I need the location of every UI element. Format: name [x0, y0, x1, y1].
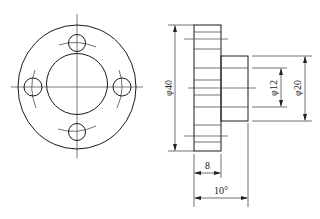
bolt-circle-arc-right	[117, 70, 122, 108]
bolt-circle-arc-left	[32, 70, 36, 108]
dim-8-label: 8	[205, 160, 210, 171]
dim-phi40-label: φ40	[163, 80, 174, 96]
arrow-icon	[303, 56, 307, 63]
arrow-icon	[303, 114, 307, 121]
arrow-icon	[214, 171, 221, 175]
side-view: φ40 φ12 φ20 8 10°	[163, 25, 312, 207]
arrow-icon	[173, 144, 177, 151]
arrow-icon	[279, 100, 283, 107]
arrow-icon	[173, 25, 177, 32]
arrow-icon	[241, 196, 248, 200]
dim-phi20-label: φ20	[292, 80, 303, 96]
hub-section	[221, 56, 248, 121]
arrow-icon	[279, 68, 283, 75]
dim-10-label: 10°	[214, 185, 228, 196]
arrow-icon	[194, 171, 201, 175]
front-view	[11, 14, 143, 158]
dim-phi12-label: φ12	[268, 80, 279, 96]
technical-drawing: φ40 φ12 φ20 8 10°	[0, 0, 320, 219]
bolt-circle-arc-top	[59, 42, 96, 47]
arrow-icon	[194, 196, 201, 200]
